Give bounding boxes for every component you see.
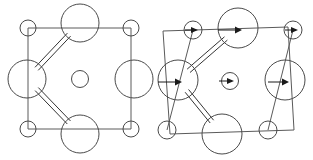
figure-canvas: [0, 0, 313, 160]
atom-corner-atom-bottom-right-right-panel: [259, 121, 277, 139]
atom-corner-atom-top-left-left-panel: [20, 20, 36, 36]
atom-corner-atom-bottom-left-right-panel: [158, 121, 176, 139]
atom-corner-atom-top-right-left-panel: [123, 20, 139, 36]
atom-center-atom-left-panel: [72, 71, 89, 88]
atom-edge-atom-top-left-panel: [61, 4, 99, 42]
atom-edge-atom-left-left-panel: [8, 60, 46, 98]
atom-edge-atom-bottom-right-panel: [202, 114, 242, 154]
atom-edge-atom-right-left-panel: [115, 60, 153, 98]
crystal-structure-figure: Crystal structure unit cells: undistorte…: [0, 0, 313, 160]
atom-group-left-panel: [8, 4, 153, 153]
atom-edge-atom-bottom-left-panel: [61, 115, 99, 153]
undistorted-unit-cell: [8, 4, 153, 153]
atom-corner-atom-bottom-right-left-panel: [123, 121, 139, 137]
atom-corner-atom-bottom-left-left-panel: [20, 121, 36, 137]
